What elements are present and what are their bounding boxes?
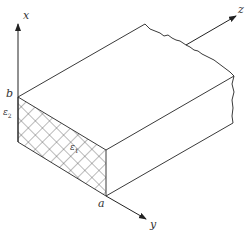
diagram-drawing: [0, 0, 248, 236]
epsilon2-subscript: 2: [8, 112, 12, 119]
break-line-right: [232, 76, 234, 123]
z-axis-label: z: [238, 4, 244, 15]
waveguide-diagram: x y z b a ε2 ε1: [0, 0, 248, 236]
top-front-edge: [106, 76, 234, 150]
y-axis-label: y: [150, 219, 156, 230]
top-left-edge: [18, 24, 145, 97]
epsilon2-label: ε2: [3, 108, 12, 119]
bottom-edge: [106, 123, 233, 196]
break-line-top: [145, 24, 234, 76]
point-b-label: b: [6, 88, 13, 99]
x-axis-label: x: [23, 10, 29, 21]
z-axis: [186, 16, 236, 45]
epsilon1-label: ε1: [70, 143, 79, 154]
epsilon1-subscript: 1: [75, 147, 79, 154]
point-a-label: a: [98, 198, 105, 209]
y-axis: [106, 196, 146, 219]
cross-section-face: [18, 97, 106, 196]
